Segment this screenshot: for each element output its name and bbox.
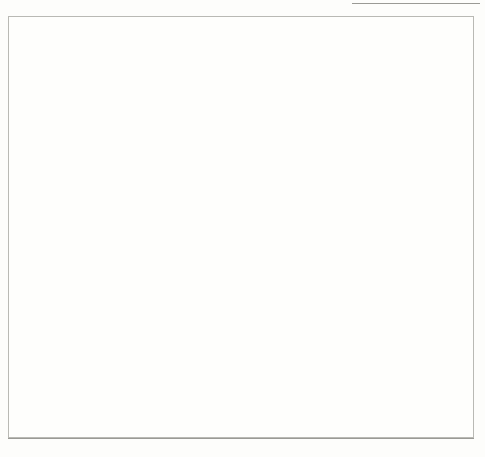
plate-header [352,2,480,4]
scale-bar-ticks [62,420,162,434]
title-rule [352,3,480,4]
scale-bar [62,420,162,438]
plate-frame [8,16,474,438]
bottom-rule [8,438,474,439]
specimen-figure-canvas [9,17,473,437]
plate-page [0,0,485,457]
